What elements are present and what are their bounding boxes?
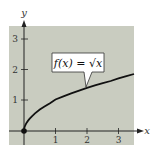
y-tick-3: 3 (12, 34, 18, 44)
function-label: f(x) = √x (53, 57, 103, 70)
x-tick-1: 1 (53, 135, 59, 145)
x-axis-arrow-icon (137, 129, 144, 134)
y-tick-1: 1 (12, 95, 18, 105)
x-axis-label: x (144, 125, 150, 136)
x-tick-3: 3 (116, 135, 122, 145)
origin-point (21, 128, 27, 134)
function-graph: 1 2 3 1 2 3 x y f(x) = √x (0, 0, 152, 151)
plot-area (9, 26, 134, 145)
y-axis-arrow-icon (22, 20, 27, 27)
y-tick-2: 2 (12, 65, 18, 75)
y-axis-label: y (20, 7, 27, 18)
x-tick-2: 2 (84, 135, 90, 145)
